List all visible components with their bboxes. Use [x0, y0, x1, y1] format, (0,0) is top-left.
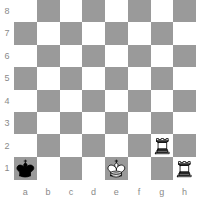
square-d5[interactable] [82, 67, 105, 89]
white-king-on-e1[interactable] [105, 157, 128, 180]
square-a4[interactable] [14, 90, 37, 112]
rank-label-2: 2 [0, 135, 14, 158]
square-e5[interactable] [105, 67, 128, 89]
file-label-e: e [105, 182, 128, 203]
file-label-d: d [82, 182, 105, 203]
square-b6[interactable] [37, 45, 60, 67]
square-h1[interactable] [173, 157, 196, 180]
square-h6[interactable] [173, 45, 196, 67]
square-d8[interactable] [82, 0, 105, 22]
square-a8[interactable] [14, 0, 37, 22]
square-g5[interactable] [151, 67, 174, 89]
square-b4[interactable] [37, 90, 60, 112]
square-f3[interactable] [128, 112, 151, 134]
square-c4[interactable] [60, 90, 83, 112]
square-f5[interactable] [128, 67, 151, 89]
square-f6[interactable] [128, 45, 151, 67]
file-label-g: g [151, 182, 174, 203]
rank-label-5: 5 [0, 68, 14, 91]
square-g6[interactable] [151, 45, 174, 67]
square-h5[interactable] [173, 67, 196, 89]
square-e8[interactable] [105, 0, 128, 22]
file-label-c: c [60, 182, 83, 203]
square-a2[interactable] [14, 134, 37, 157]
white-rook-on-g2[interactable] [151, 134, 174, 157]
file-label-h: h [173, 182, 196, 203]
square-d4[interactable] [82, 90, 105, 112]
square-a6[interactable] [14, 45, 37, 67]
square-b5[interactable] [37, 67, 60, 89]
square-g8[interactable] [151, 0, 174, 22]
square-d7[interactable] [82, 22, 105, 44]
square-h8[interactable] [173, 0, 196, 22]
square-f7[interactable] [128, 22, 151, 44]
black-king-on-a1[interactable] [14, 157, 37, 180]
square-b2[interactable] [37, 134, 60, 157]
file-label-row: a b c d e f g h [14, 182, 196, 203]
square-h2[interactable] [173, 134, 196, 157]
file-label-a: a [14, 182, 37, 203]
square-c3[interactable] [60, 112, 83, 134]
square-e4[interactable] [105, 90, 128, 112]
rank-label-7: 7 [0, 23, 14, 46]
square-d2[interactable] [82, 134, 105, 157]
file-label-f: f [128, 182, 151, 203]
square-d3[interactable] [82, 112, 105, 134]
square-h3[interactable] [173, 112, 196, 134]
square-g7[interactable] [151, 22, 174, 44]
rank-label-3: 3 [0, 113, 14, 136]
square-a7[interactable] [14, 22, 37, 44]
rank-label-column: 8 7 6 5 4 3 2 1 [0, 0, 14, 180]
square-d6[interactable] [82, 45, 105, 67]
square-b8[interactable] [37, 0, 60, 22]
square-f1[interactable] [128, 157, 151, 180]
square-a1[interactable] [14, 157, 37, 180]
square-g2[interactable] [151, 134, 174, 157]
square-g1[interactable] [151, 157, 174, 180]
square-e2[interactable] [105, 134, 128, 157]
rank-label-8: 8 [0, 0, 14, 23]
square-e7[interactable] [105, 22, 128, 44]
square-c7[interactable] [60, 22, 83, 44]
square-b1[interactable] [37, 157, 60, 180]
square-g4[interactable] [151, 90, 174, 112]
rank-label-6: 6 [0, 45, 14, 68]
square-f8[interactable] [128, 0, 151, 22]
rank-label-1: 1 [0, 158, 14, 181]
chess-diagram: 8 7 6 5 4 3 2 1 a b c d e f g h [0, 0, 200, 203]
file-label-b: b [37, 182, 60, 203]
square-b7[interactable] [37, 22, 60, 44]
rank-label-4: 4 [0, 90, 14, 113]
square-e1[interactable] [105, 157, 128, 180]
square-b3[interactable] [37, 112, 60, 134]
square-c5[interactable] [60, 67, 83, 89]
square-f2[interactable] [128, 134, 151, 157]
square-f4[interactable] [128, 90, 151, 112]
square-c8[interactable] [60, 0, 83, 22]
square-e6[interactable] [105, 45, 128, 67]
square-a5[interactable] [14, 67, 37, 89]
white-rook-on-h1[interactable] [173, 157, 196, 180]
square-h4[interactable] [173, 90, 196, 112]
square-d1[interactable] [82, 157, 105, 180]
square-g3[interactable] [151, 112, 174, 134]
square-h7[interactable] [173, 22, 196, 44]
square-c2[interactable] [60, 134, 83, 157]
chess-board [14, 0, 196, 180]
square-c6[interactable] [60, 45, 83, 67]
square-e3[interactable] [105, 112, 128, 134]
square-a3[interactable] [14, 112, 37, 134]
square-c1[interactable] [60, 157, 83, 180]
